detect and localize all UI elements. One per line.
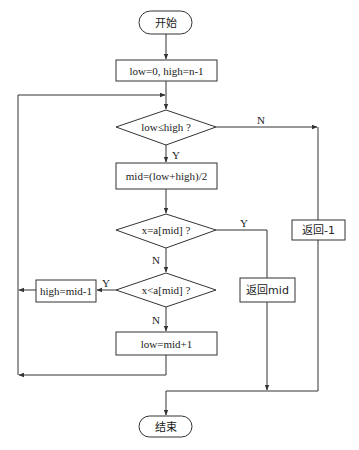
node-set-high: high=mid-1 <box>36 280 96 302</box>
node-set-low: low=mid+1 <box>116 332 217 355</box>
node-start: 开始 <box>139 11 192 34</box>
node-end: 结束 <box>139 416 192 437</box>
edge-cond-equal-yes <box>216 230 267 278</box>
edge-return-neg-merge <box>166 240 318 391</box>
cond-equal-label: x=a[mid] ? <box>142 224 191 236</box>
cond-less-label: x<a[mid] ? <box>142 284 191 296</box>
label-less-no: N <box>152 314 160 326</box>
node-calc-mid: mid=(low+high)/2 <box>116 163 217 189</box>
set-low-label: low=mid+1 <box>141 338 193 350</box>
start-label: 开始 <box>155 16 177 30</box>
set-high-label: high=mid-1 <box>40 285 92 297</box>
init-label: low=0, high=n-1 <box>129 65 203 77</box>
label-equal-no: N <box>152 254 160 266</box>
return-neg-label: 返回-1 <box>302 224 335 237</box>
node-return-neg: 返回-1 <box>292 220 345 240</box>
cond-loop-label: low≤high ? <box>141 121 191 133</box>
label-less-yes: Y <box>102 277 110 289</box>
label-equal-yes: Y <box>240 217 248 229</box>
node-init: low=0, high=n-1 <box>116 60 217 81</box>
node-return-mid: 返回mid <box>240 278 295 302</box>
node-cond-less: x<a[mid] ? <box>116 273 216 307</box>
flowchart: 开始 low=0, high=n-1 low≤high ? mid=(low+h… <box>0 0 359 450</box>
label-loop-yes: Y <box>172 149 180 161</box>
return-mid-label: 返回mid <box>246 284 289 297</box>
end-label: 结束 <box>155 421 177 434</box>
node-cond-loop: low≤high ? <box>116 110 216 145</box>
calc-mid-label: mid=(low+high)/2 <box>126 170 207 183</box>
node-cond-equal: x=a[mid] ? <box>116 214 216 248</box>
label-loop-no: N <box>257 114 265 126</box>
edge-low-back <box>19 355 166 375</box>
